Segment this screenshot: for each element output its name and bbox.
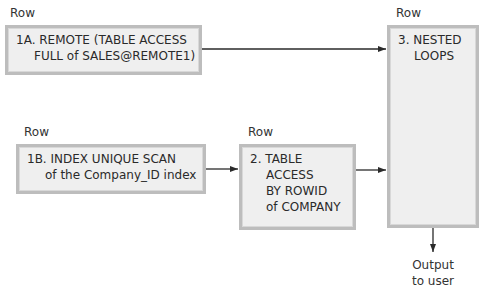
output-line-1: Output bbox=[408, 257, 458, 273]
edge-arrows bbox=[0, 0, 483, 293]
output-line-2: to user bbox=[408, 273, 458, 289]
output-label: Output to user bbox=[408, 257, 458, 289]
